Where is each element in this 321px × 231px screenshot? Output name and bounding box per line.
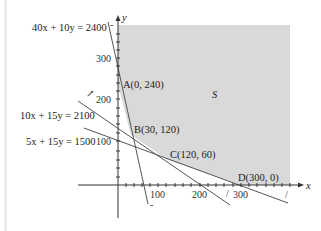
region-label: S — [212, 89, 218, 100]
x-axis-label: x — [305, 180, 311, 191]
constraint-label: 40x + 10y = 2400 — [32, 22, 107, 33]
x-tick-label: 100 — [150, 189, 165, 200]
arrow-mark: - — [110, 19, 113, 30]
vertex-label-a: A(0, 240) — [123, 79, 164, 91]
x-axis-arrow-icon — [298, 183, 304, 188]
y-tick-label: 300 — [96, 53, 111, 64]
y-axis-label: y — [121, 12, 127, 23]
feasible-region — [118, 25, 290, 185]
arrow-mark: / — [226, 188, 229, 199]
arrow-mark: / — [285, 189, 288, 200]
y-axis-arrow-icon — [116, 15, 121, 21]
y-tick-label: 200 — [96, 94, 111, 105]
x-tick-label: 300 — [233, 189, 248, 200]
vertex-label-c: C(120, 60) — [170, 149, 216, 161]
vertex-label-d: D(300, 0) — [238, 172, 279, 184]
y-tick-label: 100 — [96, 136, 111, 147]
constraint-label: 10x + 15y = 2100 — [20, 110, 95, 121]
arrow-mark: - — [150, 199, 153, 210]
x-tick-label: 200 — [192, 189, 207, 200]
vertex-label-b: B(30, 120) — [134, 124, 180, 136]
constraint-label: 5x + 15y = 1500 — [26, 136, 96, 147]
feasible-region-diagram: - ↗ - / / x y 100 200 300 100 200 — [0, 0, 321, 231]
arrow-mark: ↗ — [86, 88, 94, 99]
